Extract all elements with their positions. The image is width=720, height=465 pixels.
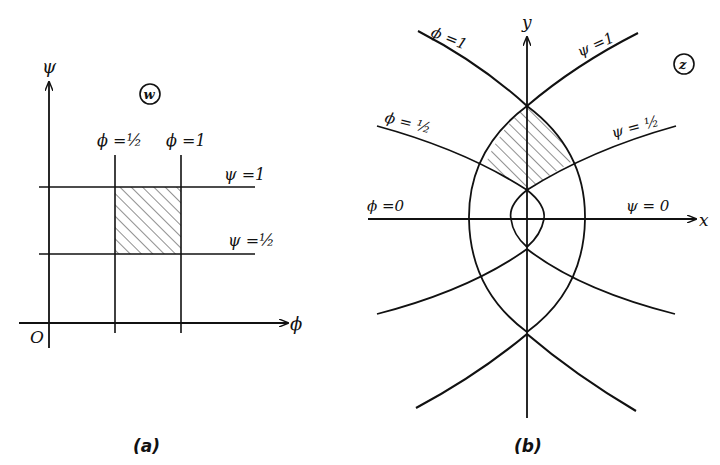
x-axis-label: x [699, 210, 709, 230]
curve-phi-half-lower [377, 249, 527, 314]
svg-text:z: z [678, 57, 687, 72]
label-psi-one: ψ =1 [224, 165, 265, 184]
shaded-region-z [485, 106, 571, 190]
label-b-psi-zero: ψ = 0 [626, 197, 670, 215]
z-plane-badge: z [674, 54, 694, 74]
label-phi-half: ϕ =½ [97, 131, 142, 150]
label-b-psi-half: ψ = ½ [609, 112, 660, 142]
label-phi-one: ϕ =1 [166, 131, 206, 150]
caption-b: (b) [514, 436, 542, 456]
curve-psi-one-lower [527, 334, 636, 411]
label-b-phi-half: ϕ = ½ [383, 108, 433, 137]
caption-a: (a) [133, 436, 160, 456]
w-plane-badge: w [140, 84, 160, 104]
label-b-phi-zero: ϕ =0 [367, 197, 405, 215]
phi-axis-label: ϕ [290, 313, 302, 334]
shaded-square [115, 187, 181, 254]
panel-b-z-plane: y x z ϕ =1 ψ =1 ϕ = ½ ψ = ½ ϕ =0 ψ = 0 (… [367, 12, 709, 456]
curve-phi-one-upper [418, 31, 527, 106]
label-psi-half: ψ =½ [228, 231, 275, 250]
curve-psi-half-lower [527, 249, 675, 314]
origin-label: O [30, 327, 44, 347]
conformal-map-figure: ψ ϕ O w ϕ =½ ϕ =1 ψ =1 ψ =½ (a) [0, 0, 720, 465]
curve-phi-one-lower [416, 334, 527, 408]
y-axis-label: y [521, 12, 532, 32]
panel-a-w-plane: ψ ϕ O w ϕ =½ ϕ =1 ψ =1 ψ =½ (a) [19, 56, 302, 456]
svg-text:w: w [144, 87, 156, 102]
psi-axis-label: ψ [42, 56, 57, 77]
